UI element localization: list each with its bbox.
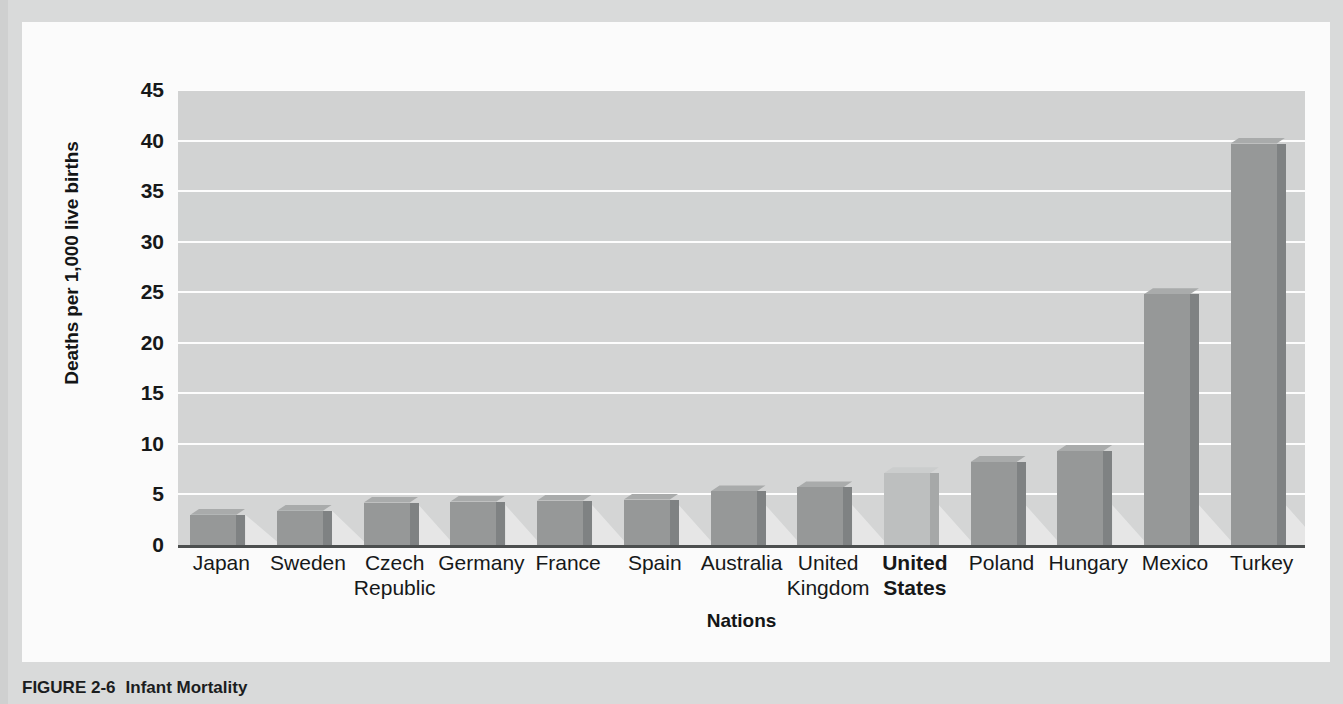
bar-front-face bbox=[190, 515, 236, 545]
bar-front-face bbox=[624, 500, 670, 546]
plot-band bbox=[178, 191, 1305, 242]
y-axis-tick-label: 20 bbox=[118, 332, 164, 353]
bar-top-face bbox=[277, 505, 332, 511]
figure-caption-number: FIGURE 2-6 bbox=[22, 678, 116, 697]
bar-front-face bbox=[971, 462, 1017, 545]
y-axis-tick-label: 10 bbox=[118, 433, 164, 454]
y-axis-tick-label: 45 bbox=[118, 79, 164, 100]
gridline bbox=[178, 392, 1305, 394]
bar-top-face bbox=[537, 495, 592, 501]
plot-area bbox=[178, 90, 1305, 545]
x-axis-label-turkey: Turkey bbox=[1208, 550, 1315, 575]
y-axis-tick-label: 15 bbox=[118, 382, 164, 403]
figure-outer-frame: Deaths per 1,000 live births 45403530252… bbox=[0, 0, 1343, 704]
bar-side-face bbox=[670, 500, 679, 546]
gridline bbox=[178, 241, 1305, 243]
bar-side-face bbox=[843, 487, 852, 545]
bar-top-face bbox=[971, 456, 1026, 462]
bar-top-face bbox=[190, 509, 245, 515]
bar-side-face bbox=[1017, 462, 1026, 545]
bar-spain[interactable] bbox=[624, 494, 679, 546]
plot-band bbox=[178, 242, 1305, 293]
bar-front-face bbox=[1144, 294, 1190, 545]
bar-united-states[interactable] bbox=[884, 467, 939, 545]
bar-front-face bbox=[1231, 144, 1277, 545]
bar-front-face bbox=[884, 473, 930, 545]
bar-sweden[interactable] bbox=[277, 505, 332, 545]
bar-hungary[interactable] bbox=[1057, 445, 1112, 545]
bar-side-face bbox=[236, 515, 245, 545]
bar-top-face bbox=[1144, 288, 1199, 294]
bar-top-face bbox=[1231, 138, 1286, 144]
bar-japan[interactable] bbox=[190, 509, 245, 545]
bar-front-face bbox=[364, 503, 410, 545]
figure-panel: Deaths per 1,000 live births 45403530252… bbox=[22, 22, 1330, 662]
bar-front-face bbox=[277, 511, 323, 545]
x-axis-line bbox=[178, 545, 1305, 548]
bar-side-face bbox=[323, 511, 332, 545]
y-axis-tick-label: 5 bbox=[118, 483, 164, 504]
bar-top-face bbox=[797, 481, 852, 487]
bar-side-face bbox=[410, 503, 419, 545]
bar-top-face bbox=[624, 494, 679, 500]
gridline bbox=[178, 90, 1305, 91]
gridline bbox=[178, 443, 1305, 445]
gridline bbox=[178, 140, 1305, 142]
plot-band bbox=[178, 90, 1305, 141]
plot-band bbox=[178, 393, 1305, 444]
bar-top-face bbox=[711, 485, 766, 491]
bar-side-face bbox=[1103, 451, 1112, 545]
bar-top-face bbox=[450, 496, 505, 502]
bar-australia[interactable] bbox=[711, 485, 766, 545]
y-axis-title: Deaths per 1,000 live births bbox=[61, 73, 83, 453]
bar-united-kingdom[interactable] bbox=[797, 481, 852, 545]
bar-front-face bbox=[450, 502, 496, 545]
bar-france[interactable] bbox=[537, 495, 592, 545]
bar-mexico[interactable] bbox=[1144, 288, 1199, 545]
bar-front-face bbox=[1057, 451, 1103, 545]
bar-turkey[interactable] bbox=[1231, 138, 1286, 545]
bar-front-face bbox=[711, 491, 757, 545]
bar-side-face bbox=[757, 491, 766, 545]
y-axis-tick-label: 0 bbox=[118, 534, 164, 555]
bar-front-face bbox=[537, 501, 583, 545]
bar-side-face bbox=[930, 473, 939, 545]
bar-front-face bbox=[797, 487, 843, 545]
y-axis-tick-label: 35 bbox=[118, 180, 164, 201]
y-axis-tick-labels: 454035302520151050 bbox=[118, 22, 164, 704]
plot-band bbox=[178, 343, 1305, 394]
bar-top-face bbox=[884, 467, 939, 473]
y-axis-tick-label: 25 bbox=[118, 281, 164, 302]
bar-top-face bbox=[1057, 445, 1112, 451]
bar-side-face bbox=[1277, 144, 1286, 545]
y-axis-tick-label: 40 bbox=[118, 130, 164, 151]
bar-side-face bbox=[496, 502, 505, 545]
bar-side-face bbox=[1190, 294, 1199, 545]
x-axis-title: Nations bbox=[178, 610, 1305, 632]
bar-germany[interactable] bbox=[450, 496, 505, 545]
bar-top-face bbox=[364, 497, 419, 503]
plot-band bbox=[178, 292, 1305, 343]
y-axis-tick-label: 30 bbox=[118, 231, 164, 252]
figure-caption-title: Infant Mortality bbox=[126, 678, 248, 697]
gridline bbox=[178, 291, 1305, 293]
bar-czech-republic[interactable] bbox=[364, 497, 419, 545]
gridline bbox=[178, 342, 1305, 344]
bar-poland[interactable] bbox=[971, 456, 1026, 545]
plot-band bbox=[178, 141, 1305, 192]
figure-caption: FIGURE 2-6Infant Mortality bbox=[22, 678, 1330, 704]
bar-side-face bbox=[583, 501, 592, 545]
gridline bbox=[178, 190, 1305, 192]
frame-left-edge bbox=[0, 0, 8, 704]
